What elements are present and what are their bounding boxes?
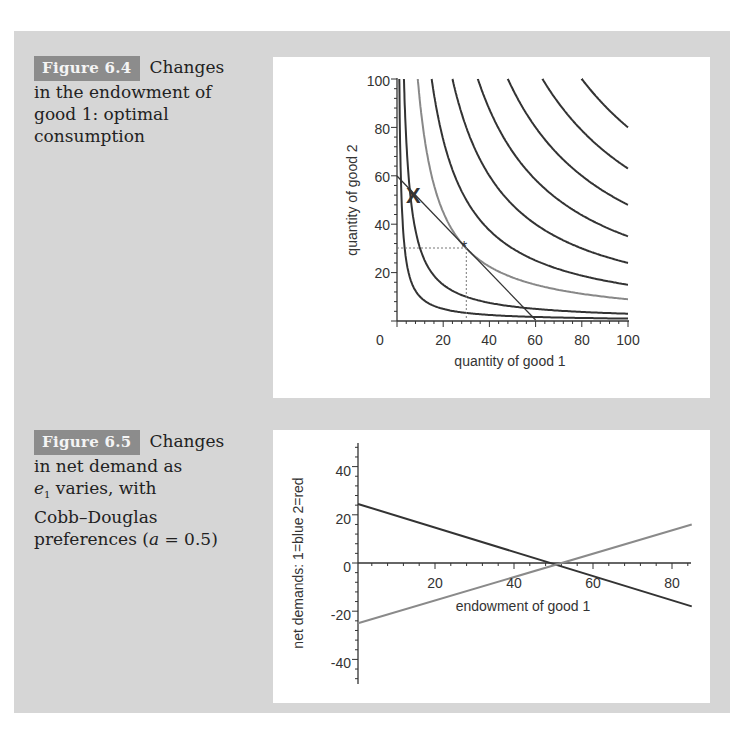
caption-first-word: Changes: [150, 57, 225, 77]
caption-text: preferences (: [34, 529, 149, 549]
x-axis-label: quantity of good 1: [454, 353, 566, 369]
caption-parameter-value: = 0.5): [159, 529, 218, 549]
y-tick-label: 20: [335, 511, 351, 527]
indifference-curve: [478, 79, 628, 236]
caption-line: e1 varies, with: [34, 477, 264, 506]
page-top-margin: [0, 0, 744, 30]
indifference-curve: [452, 79, 628, 263]
y-tick-label: 20: [374, 265, 390, 281]
y-tick-label: 60: [374, 169, 390, 185]
figure-6-5-chart: 20 40 60 80 -40 -20 0 20 40 endowment of…: [273, 430, 710, 703]
y-tick-label: -20: [331, 607, 351, 623]
caption-variable: e: [34, 478, 44, 498]
caption-line: good 1: optimal: [34, 103, 264, 125]
optimum-star-marker: *: [461, 239, 467, 256]
caption-line: in net demand as: [34, 455, 264, 477]
caption-line: Cobb–Douglas: [34, 506, 264, 528]
y-tick-label: 40: [335, 463, 351, 479]
y-tick-label: 80: [374, 121, 390, 137]
x-tick-label: 80: [664, 575, 680, 591]
y-tick-label: -40: [331, 655, 351, 671]
caption-text: varies, with: [56, 478, 157, 498]
caption-subscript: 1: [44, 489, 50, 500]
x-tick-label: 60: [585, 575, 601, 591]
x-tick-label: 40: [481, 332, 497, 348]
indifference-curve: [508, 79, 628, 205]
x-tick-label: 100: [616, 332, 640, 348]
x-tick-label: 20: [427, 575, 443, 591]
indifference-curves: [399, 79, 628, 319]
figure-6-4-caption: Figure 6.4Changes in the endowment of go…: [34, 56, 264, 147]
figure-6-4-label: Figure 6.4: [34, 56, 140, 81]
y-axis-label: net demands: 1=blue 2=red: [290, 477, 306, 648]
endowment-x-marker: X: [406, 183, 421, 208]
figure-6-5-label: Figure 6.5: [34, 430, 140, 455]
x-tick-label: 40: [506, 575, 522, 591]
caption-line: preferences (a = 0.5): [34, 528, 264, 550]
indifference-curve: [543, 79, 629, 169]
y-tick-label: 40: [374, 217, 390, 233]
x-tick-label: 20: [435, 332, 451, 348]
figure-6-4-chart: X * 0 20 40 60 80 100 20 40 60 80 100 qu…: [273, 57, 710, 398]
caption-parameter: a: [149, 529, 159, 549]
x-tick-label: 0: [376, 332, 384, 348]
indifference-curve: [399, 79, 628, 319]
indifference-curve: [418, 79, 628, 299]
figure-6-5-panel: 20 40 60 80 -40 -20 0 20 40 endowment of…: [273, 430, 710, 703]
figure-6-4-panel: X * 0 20 40 60 80 100 20 40 60 80 100 qu…: [273, 57, 710, 398]
net-demand-good-1-line: [358, 504, 692, 606]
x-tick-label: 60: [527, 332, 543, 348]
indifference-curve: [582, 79, 628, 127]
caption-first-word: Changes: [150, 431, 225, 451]
x-tick-label: 80: [574, 332, 590, 348]
y-axis-label: quantity of good 2: [344, 144, 360, 256]
x-axis-label: endowment of good 1: [456, 598, 591, 614]
y-tick-label: 100: [367, 73, 391, 89]
caption-line: in the endowment of: [34, 81, 264, 103]
caption-line: consumption: [34, 125, 264, 147]
figure-6-5-caption: Figure 6.5Changes in net demand as e1 va…: [34, 430, 264, 550]
y-tick-label: 0: [343, 559, 351, 575]
